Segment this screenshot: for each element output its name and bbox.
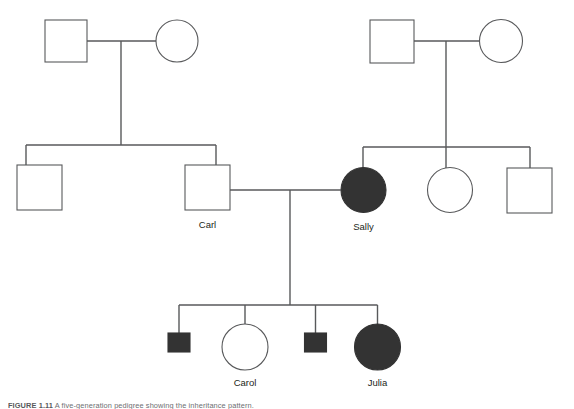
person-label-sally: Sally	[353, 221, 374, 232]
person-III-2-carol[interactable]: Carol	[222, 324, 268, 388]
person-III-4-julia[interactable]: Julia	[355, 324, 401, 388]
person-II-3-sally[interactable]: Sally	[341, 168, 386, 233]
person-II-4[interactable]	[428, 168, 473, 213]
person-label-carol: Carol	[234, 377, 257, 388]
female-circle-affected[interactable]	[355, 324, 401, 370]
pedigree-diagram: Carl Sally Carol	[0, 0, 574, 409]
person-I-1[interactable]	[45, 20, 87, 62]
female-circle-unaffected[interactable]	[428, 168, 473, 213]
male-square-unaffected[interactable]	[17, 165, 62, 210]
male-square-unaffected[interactable]	[507, 168, 552, 213]
mating-group-3	[179, 190, 378, 333]
male-square-unaffected[interactable]	[370, 20, 414, 63]
female-circle-unaffected[interactable]	[222, 324, 268, 370]
male-square-unaffected[interactable]	[185, 165, 230, 210]
person-II-2-carl[interactable]: Carl	[185, 165, 230, 230]
person-II-5[interactable]	[507, 168, 552, 213]
person-I-2[interactable]	[156, 20, 198, 62]
person-I-4[interactable]	[480, 20, 523, 63]
person-label-julia: Julia	[368, 377, 388, 388]
male-square-unaffected[interactable]	[45, 20, 87, 62]
figure-caption: FIGURE 1.11 A five-generation pedigree s…	[8, 401, 254, 409]
person-II-1[interactable]	[17, 165, 62, 210]
female-circle-affected[interactable]	[341, 168, 386, 213]
male-small-square-affected[interactable]	[168, 333, 190, 352]
person-I-3[interactable]	[370, 20, 414, 63]
person-label-carl: Carl	[199, 219, 216, 230]
figure-caption-label: FIGURE 1.11	[8, 401, 53, 409]
person-III-1[interactable]	[168, 333, 190, 352]
female-circle-unaffected[interactable]	[156, 20, 198, 62]
female-circle-unaffected[interactable]	[480, 20, 523, 63]
figure-caption-text: A five-generation pedigree showing the i…	[55, 401, 254, 409]
person-III-3[interactable]	[305, 333, 327, 352]
pedigree-figure-page: Carl Sally Carol	[0, 0, 574, 409]
male-small-square-affected[interactable]	[305, 333, 327, 352]
